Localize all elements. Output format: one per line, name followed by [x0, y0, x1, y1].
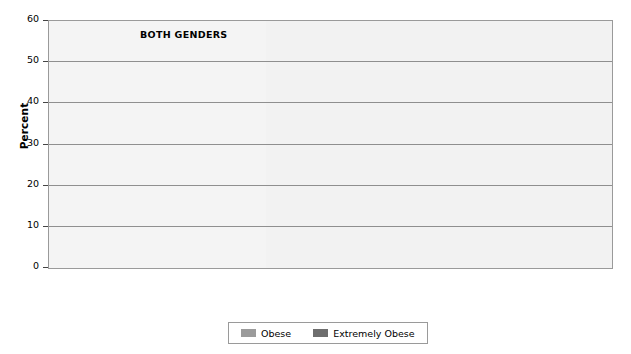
y-axis-tick-label: 60: [0, 13, 39, 24]
legend-swatch-extremely-obese-icon: [313, 329, 328, 337]
section-background-both-genders: [49, 21, 266, 268]
gridline: [49, 144, 612, 145]
y-axis-tick-mark: [43, 267, 48, 268]
y-axis-tick-mark: [43, 185, 48, 186]
legend-label-obese: Obese: [261, 328, 291, 339]
plot-area: BOTH GENDERS: [48, 20, 613, 269]
gridline: [49, 185, 612, 186]
section-header-both-genders: BOTH GENDERS: [140, 29, 227, 40]
y-axis-tick-mark: [43, 144, 48, 145]
legend-swatch-obese-icon: [241, 329, 256, 337]
y-axis-tick-mark: [43, 226, 48, 227]
legend-item-extremely-obese[interactable]: Extremely Obese: [313, 328, 414, 339]
y-axis-tick-mark: [43, 102, 48, 103]
gridline: [49, 61, 612, 62]
y-axis-tick-label: 0: [0, 260, 39, 271]
legend-label-extremely-obese: Extremely Obese: [333, 328, 414, 339]
chart-legend: Obese Extremely Obese: [228, 322, 428, 344]
legend-item-obese[interactable]: Obese: [241, 328, 291, 339]
y-axis-tick-mark: [43, 20, 48, 21]
gridline: [49, 102, 612, 103]
y-axis-tick-label: 30: [0, 137, 39, 148]
obesity-bar-chart: Percent BOTH GENDERS 0102030405060 Obese…: [0, 0, 631, 354]
y-axis-tick-label: 40: [0, 95, 39, 106]
gridline: [49, 226, 612, 227]
y-axis-tick-mark: [43, 61, 48, 62]
y-axis-tick-label: 50: [0, 54, 39, 65]
y-axis-tick-label: 10: [0, 219, 39, 230]
y-axis-tick-label: 20: [0, 178, 39, 189]
